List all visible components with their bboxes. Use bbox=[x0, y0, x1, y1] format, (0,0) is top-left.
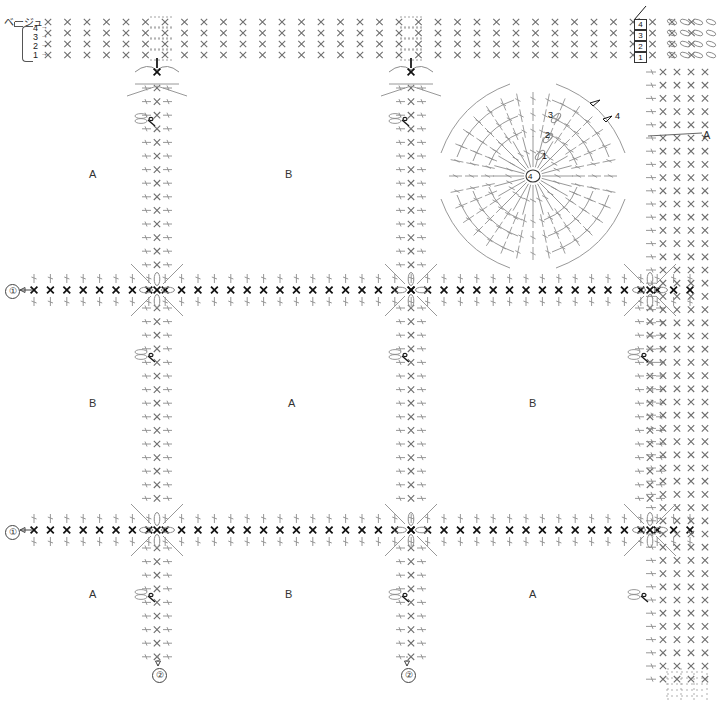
block-label: A bbox=[288, 397, 295, 409]
block-label: A bbox=[529, 588, 536, 600]
round-number-3: 3 bbox=[634, 30, 647, 41]
block-label: A bbox=[89, 588, 96, 600]
grid-join-motifs bbox=[20, 58, 676, 666]
row-marker-1: ① bbox=[5, 284, 20, 299]
motif-round-2-label: 2 bbox=[545, 130, 550, 140]
placeholder-cells bbox=[666, 668, 707, 700]
block-label: B bbox=[529, 397, 536, 409]
chart-vector-layer bbox=[0, 0, 717, 701]
block-label: A bbox=[89, 168, 96, 180]
legend-arrow-3: → bbox=[41, 32, 48, 39]
crochet-chart-canvas: ベージュ 4 3 2 1 → → → → 4 3 2 1 3 2 1 4 4 A… bbox=[0, 0, 717, 701]
motif-center-label: 4 bbox=[528, 172, 532, 181]
row-marker-2: ② bbox=[152, 668, 167, 683]
motif-side-label: 4 bbox=[615, 111, 620, 121]
block-label: B bbox=[285, 588, 292, 600]
right-border-stitches bbox=[646, 69, 708, 683]
round-number-2: 2 bbox=[634, 41, 647, 52]
legend-arrow-4: → bbox=[41, 23, 48, 30]
horizontal-stitch-rows bbox=[31, 274, 694, 546]
top-stitch-band bbox=[45, 6, 717, 60]
legend-bracket bbox=[22, 26, 33, 62]
vertical-stitch-columns bbox=[142, 85, 665, 660]
legend-arrow-2: → bbox=[41, 41, 48, 48]
edge-label-a: A bbox=[703, 129, 710, 141]
round-number-4: 4 bbox=[634, 19, 647, 30]
motif-round-3-label: 3 bbox=[548, 110, 553, 120]
row-marker-2: ② bbox=[401, 668, 416, 683]
row-marker-1: ① bbox=[5, 525, 20, 540]
granny-square-motif bbox=[441, 84, 625, 268]
legend-row-1: 1 bbox=[33, 50, 38, 60]
legend-arrow-1: → bbox=[41, 50, 48, 57]
block-label: B bbox=[89, 397, 96, 409]
motif-round-1-label: 1 bbox=[542, 151, 547, 161]
legend-stem-v bbox=[14, 22, 15, 27]
legend-stem bbox=[14, 26, 23, 27]
round-number-1: 1 bbox=[634, 52, 647, 63]
block-label: B bbox=[285, 168, 292, 180]
